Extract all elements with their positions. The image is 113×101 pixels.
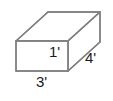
rectangular-prism-figure: 1' 3' 4' <box>0 0 113 101</box>
dimension-label-width: 3' <box>36 74 47 89</box>
dimension-label-height: 1' <box>49 44 60 59</box>
dimension-label-depth: 4' <box>85 50 96 65</box>
